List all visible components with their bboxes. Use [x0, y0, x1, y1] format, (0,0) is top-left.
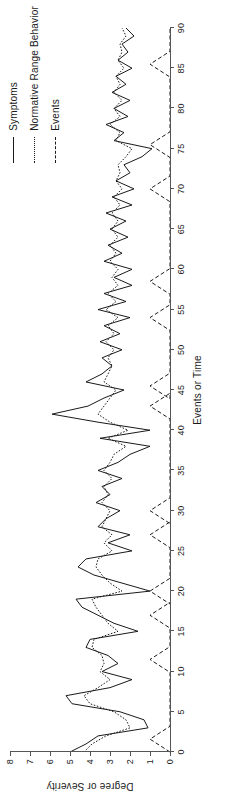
x-axis-tick [170, 268, 174, 269]
x-axis-tick [170, 228, 174, 229]
x-axis-tick-label: 20 [176, 586, 186, 596]
x-axis-tick-label: 90 [176, 23, 186, 33]
y-axis-tick-label: 3 [105, 759, 115, 764]
x-axis-tick [170, 671, 174, 672]
y-axis-tick [70, 752, 71, 756]
x-axis-tick [170, 711, 174, 712]
x-axis-tick-label: 35 [176, 465, 186, 475]
x-axis-line [170, 28, 171, 752]
x-axis-tick-label: 45 [176, 385, 186, 395]
x-axis-tick [170, 590, 174, 591]
x-axis-tick-label: 15 [176, 626, 186, 636]
y-axis-tick [30, 752, 31, 756]
x-axis-tick-label: 40 [176, 425, 186, 435]
y-axis-tick-label: 4 [85, 759, 95, 764]
x-axis-tick [170, 429, 174, 430]
y-axis-tick [150, 752, 151, 756]
x-axis-tick [170, 27, 174, 28]
x-axis-tick [170, 309, 174, 310]
plot-area [10, 28, 170, 752]
y-axis-tick-label: 5 [65, 759, 75, 764]
x-axis-tick-label: 5 [176, 709, 186, 714]
x-axis-tick-label: 70 [176, 184, 186, 194]
x-axis-tick-label: 10 [176, 666, 186, 676]
y-axis-tick-label: 1 [145, 759, 155, 764]
x-axis-tick [170, 67, 174, 68]
x-axis-tick [170, 389, 174, 390]
series-line-symptoms [52, 28, 152, 752]
y-axis-tick-label: 8 [5, 759, 15, 764]
chart-figure: Symptoms Normative Range Behavior Events… [0, 0, 247, 792]
x-axis-tick-label: 25 [176, 546, 186, 556]
x-axis-tick-label: 50 [176, 345, 186, 355]
y-axis-tick-label: 7 [25, 759, 35, 764]
x-axis-tick-label: 55 [176, 304, 186, 314]
x-axis-tick-label: 80 [176, 103, 186, 113]
x-axis-tick-label: 60 [176, 264, 186, 274]
y-axis-tick [170, 752, 171, 756]
x-axis-tick [170, 550, 174, 551]
x-axis-tick [170, 107, 174, 108]
y-axis-title: Degree or Severity [47, 781, 134, 792]
y-axis-tick [10, 752, 11, 756]
y-axis-tick-label: 2 [125, 759, 135, 764]
x-axis-tick [170, 148, 174, 149]
x-axis-tick [170, 188, 174, 189]
x-axis-title: Events or Time [192, 28, 203, 752]
x-axis-tick [170, 469, 174, 470]
x-axis-tick [170, 510, 174, 511]
plot-svg [10, 28, 170, 752]
x-axis-tick [170, 630, 174, 631]
y-axis-tick-label: 0 [165, 759, 175, 764]
x-axis-tick-label: 30 [176, 505, 186, 515]
y-axis-tick [130, 752, 131, 756]
x-axis-tick-label: 75 [176, 143, 186, 153]
x-axis-tick-label: 65 [176, 224, 186, 234]
y-axis-tick [50, 752, 51, 756]
x-axis-tick-label: 0 [176, 749, 186, 754]
y-axis-tick-label: 6 [45, 759, 55, 764]
y-axis-tick [110, 752, 111, 756]
y-axis-tick [90, 752, 91, 756]
x-axis-tick [170, 349, 174, 350]
x-axis-tick-label: 85 [176, 63, 186, 73]
series-line-events [150, 28, 170, 752]
rotated-figure-stage: Symptoms Normative Range Behavior Events… [0, 0, 247, 792]
